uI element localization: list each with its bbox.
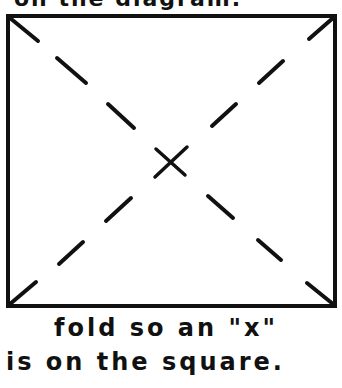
- center-x-icon: [155, 147, 187, 177]
- caption-line-2: is on the square.: [6, 348, 285, 376]
- caption-line-1: fold so an "x": [54, 314, 278, 342]
